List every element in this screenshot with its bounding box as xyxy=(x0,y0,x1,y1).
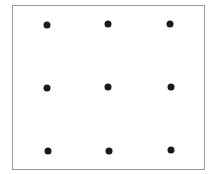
grid-dot xyxy=(167,21,174,28)
grid-dot xyxy=(45,148,52,155)
grid-dot xyxy=(168,147,175,154)
grid-dot xyxy=(44,85,51,92)
grid-dot xyxy=(105,21,112,28)
grid-dot xyxy=(44,22,51,29)
grid-dot xyxy=(168,84,175,91)
grid-dot xyxy=(106,148,113,155)
grid-dot xyxy=(105,84,112,91)
